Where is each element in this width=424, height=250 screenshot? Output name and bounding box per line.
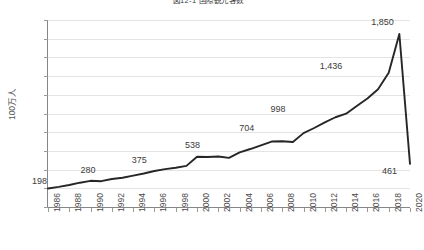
x-axis-tick-mark [91,208,92,212]
x-axis-tick-mark [367,208,368,212]
tourist-arrivals-line-series [48,20,410,207]
data-point-label: 704 [239,124,254,133]
y-axis-title: 100万人 [5,76,17,132]
x-axis-tick-mark [282,208,283,212]
x-axis-tick-mark [389,208,390,212]
data-point-label: 538 [185,141,200,150]
x-axis-tick-mark [304,208,305,212]
x-axis-tick-mark [346,208,347,212]
data-point-label: 280 [81,166,96,175]
x-axis-tick-mark [48,208,49,212]
x-axis-tick-mark [325,208,326,212]
x-axis-tick-mark [69,208,70,212]
data-point-label: 1,850 [371,18,394,27]
data-point-label: 998 [271,105,286,114]
series-line [48,34,410,188]
x-axis-tick-mark [261,208,262,212]
x-axis-end-tick-mark [410,208,411,212]
x-axis-tick-mark [154,208,155,212]
plot-area: 2,0001,8001,6001,4001,2001,0008006004002… [48,20,410,207]
data-point-label: 461 [382,167,397,176]
x-axis-tick-mark [112,208,113,212]
data-point-label: 1,436 [320,62,343,71]
data-point-label: 375 [132,156,147,165]
x-axis-tick-mark [240,208,241,212]
x-axis-tick-mark [176,208,177,212]
x-axis-tick-mark [218,208,219,212]
x-axis-tick-mark [197,208,198,212]
x-axis-tick-mark [133,208,134,212]
chart-title: 図12-1 国際観光客数 [0,0,416,4]
data-point-label: 198 [32,177,47,186]
x-axis-tick-label: 2020 [414,172,424,212]
